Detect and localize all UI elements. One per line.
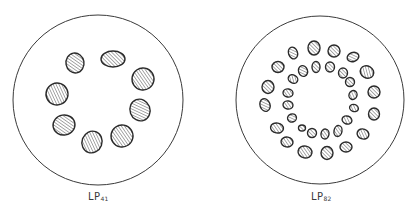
mode-pattern-figure (0, 0, 417, 213)
hatched-intensity-lobe (270, 122, 285, 134)
hatched-intensity-lobe (299, 125, 306, 131)
label-lp41-subscript: 41 (101, 195, 109, 202)
hatched-intensity-lobe (348, 89, 359, 100)
hatched-intensity-lobe (282, 88, 293, 98)
hatched-intensity-lobe (340, 142, 352, 152)
hatched-intensity-lobe (349, 103, 360, 113)
hatched-intensity-lobe (287, 46, 300, 60)
hatched-intensity-lobe (368, 86, 380, 98)
label-lp82-subscript: 82 (324, 195, 332, 202)
hatched-intensity-lobe (101, 51, 125, 67)
hatched-intensity-lobe (308, 129, 317, 138)
label-lp41: LP41 (88, 191, 108, 202)
hatched-intensity-lobe (358, 63, 376, 80)
hatched-intensity-lobe (339, 68, 348, 78)
hatched-intensity-lobe (308, 41, 320, 55)
inner-ring (282, 62, 359, 140)
hatched-intensity-lobe (369, 108, 380, 120)
hatched-intensity-lobe (326, 62, 335, 72)
hatched-intensity-lobe (333, 125, 343, 137)
hatched-intensity-lobe (258, 97, 272, 113)
hatched-intensity-lobe (280, 136, 294, 148)
hatched-intensity-lobe (262, 81, 274, 94)
hatched-intensity-lobe (43, 80, 71, 108)
outer-ring (258, 41, 380, 160)
hatched-intensity-lobe (51, 113, 76, 137)
hatched-intensity-lobe (328, 45, 340, 57)
panel-lp82-diagram (236, 16, 404, 184)
hatched-intensity-lobe (320, 128, 330, 139)
hatched-intensity-lobe (109, 123, 134, 148)
hatched-intensity-lobe (346, 78, 355, 87)
hatched-intensity-lobe (64, 52, 85, 75)
label-lp82: LP82 (311, 191, 331, 202)
label-lp41-main: LP (88, 191, 101, 202)
panel-lp41-diagram (13, 15, 183, 185)
hatched-intensity-lobe (312, 62, 320, 73)
hatched-intensity-lobe (346, 51, 360, 64)
hatched-intensity-lobe (79, 128, 105, 156)
hatched-intensity-lobe (297, 64, 309, 77)
label-lp82-main: LP (311, 191, 324, 202)
hatched-intensity-lobe (341, 115, 353, 126)
hatched-intensity-lobe (127, 96, 153, 124)
hatched-intensity-lobe (321, 147, 333, 160)
hatched-intensity-lobe (286, 113, 297, 124)
hatched-intensity-lobe (272, 62, 284, 73)
single-ring (43, 51, 156, 156)
hatched-intensity-lobe (297, 145, 313, 159)
hatched-intensity-lobe (282, 100, 293, 110)
hatched-intensity-lobe (130, 66, 155, 91)
fiber-cladding-circle (13, 15, 183, 185)
hatched-intensity-lobe (356, 127, 371, 141)
hatched-intensity-lobe (287, 73, 300, 85)
